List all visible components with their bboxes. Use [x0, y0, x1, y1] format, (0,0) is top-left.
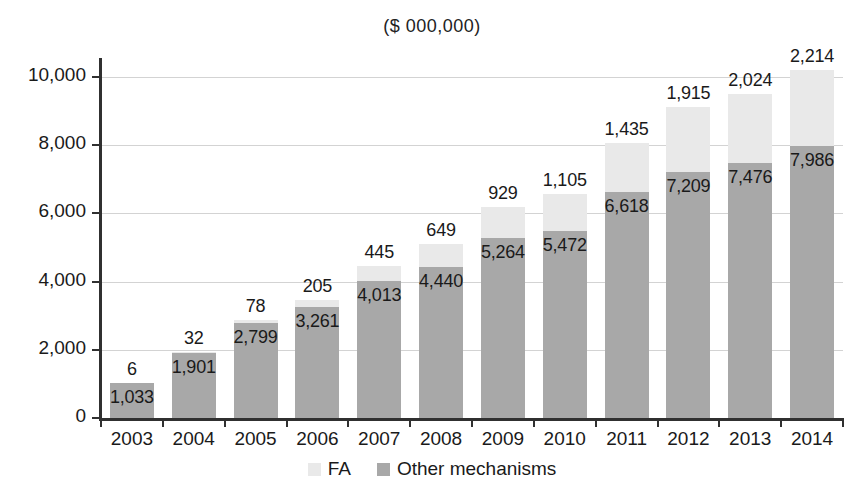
data-label-fa-2008: 649: [401, 220, 481, 241]
data-label-fa-2014: 2,214: [772, 46, 852, 67]
y-axis-tick: [92, 349, 102, 351]
x-axis-tick: [286, 418, 288, 427]
x-axis-tick-label: 2014: [781, 428, 843, 450]
x-axis-tick-label: 2006: [287, 428, 349, 450]
stacked-bar-chart: ($ 000,000) 02,0004,0006,0008,00010,000 …: [0, 0, 864, 497]
bar-2013[interactable]: [728, 94, 772, 418]
bar-segment-other-mechanisms[interactable]: [666, 172, 710, 418]
bar-2014[interactable]: [790, 70, 834, 418]
data-label-fa-2011: 1,435: [587, 119, 667, 140]
bar-segment-other-mechanisms[interactable]: [481, 238, 525, 418]
x-axis-tick: [533, 418, 535, 427]
data-label-fa-2013: 2,024: [710, 70, 790, 91]
bar-segment-fa[interactable]: [357, 266, 401, 281]
x-axis-tick-label: 2008: [410, 428, 472, 450]
x-axis-tick-label: 2009: [472, 428, 534, 450]
bar-segment-other-mechanisms[interactable]: [605, 192, 649, 418]
chart-legend: FA Other mechanisms: [0, 458, 864, 480]
x-axis-tick: [657, 418, 659, 427]
x-axis-tick-label: 2005: [225, 428, 287, 450]
data-label-fa-2007: 445: [339, 242, 419, 263]
x-axis-tick-label: 2007: [348, 428, 410, 450]
bar-segment-fa[interactable]: [666, 107, 710, 172]
data-label-other-2014: 7,986: [772, 150, 852, 171]
bar-segment-other-mechanisms[interactable]: [543, 231, 587, 418]
data-label-fa-2010: 1,105: [525, 170, 605, 191]
x-axis-tick: [718, 418, 720, 427]
bar-segment-fa[interactable]: [481, 207, 525, 239]
bar-2009[interactable]: [481, 207, 525, 418]
bar-2011[interactable]: [605, 143, 649, 418]
y-axis-tick: [92, 144, 102, 146]
chart-title: ($ 000,000): [0, 16, 864, 37]
bar-segment-other-mechanisms[interactable]: [728, 163, 772, 418]
bar-segment-fa[interactable]: [728, 94, 772, 163]
y-axis-tick: [92, 76, 102, 78]
y-axis-tick-label: 4,000: [0, 269, 86, 291]
x-axis-tick-label: 2011: [596, 428, 658, 450]
y-axis-tick-label: 10,000: [0, 64, 86, 86]
x-axis-tick-label: 2004: [163, 428, 225, 450]
data-label-other-2011: 6,618: [587, 196, 667, 217]
x-axis-tick: [100, 418, 102, 427]
x-axis-tick: [224, 418, 226, 427]
y-axis-tick: [92, 281, 102, 283]
x-axis-tick: [162, 418, 164, 427]
bar-segment-fa[interactable]: [790, 70, 834, 145]
bar-2010[interactable]: [543, 194, 587, 418]
x-axis-tick: [347, 418, 349, 427]
x-axis-tick-label: 2010: [534, 428, 596, 450]
x-axis-tick: [471, 418, 473, 427]
y-axis-tick-label: 6,000: [0, 200, 86, 222]
legend-item-other-mechanisms[interactable]: Other mechanisms: [377, 458, 556, 480]
data-label-other-2008: 4,440: [401, 271, 481, 292]
x-axis-tick-label: 2003: [101, 428, 163, 450]
bar-segment-fa[interactable]: [419, 244, 463, 266]
legend-label-fa: FA: [328, 458, 351, 480]
data-label-other-2003: 1,033: [92, 387, 172, 408]
y-axis-tick-label: 0: [0, 405, 86, 427]
bar-segment-fa[interactable]: [605, 143, 649, 192]
data-label-other-2010: 5,472: [525, 235, 605, 256]
legend-item-fa[interactable]: FA: [308, 458, 351, 480]
bar-2012[interactable]: [666, 107, 710, 418]
x-axis-tick-label: 2012: [658, 428, 720, 450]
data-label-other-2006: 3,261: [277, 311, 357, 332]
x-axis-tick: [780, 418, 782, 427]
bar-segment-other-mechanisms[interactable]: [790, 146, 834, 418]
x-axis-tick: [409, 418, 411, 427]
x-axis-tick: [842, 418, 844, 427]
legend-swatch-fa-icon: [308, 463, 321, 476]
bar-segment-fa[interactable]: [543, 194, 587, 232]
y-axis-tick-label: 8,000: [0, 132, 86, 154]
x-axis-tick: [595, 418, 597, 427]
legend-label-other-mechanisms: Other mechanisms: [397, 458, 556, 480]
y-axis-tick: [92, 212, 102, 214]
data-label-other-2004: 1,901: [154, 357, 234, 378]
bar-segment-fa[interactable]: [295, 300, 339, 307]
y-axis-tick-label: 2,000: [0, 337, 86, 359]
x-axis-tick-label: 2013: [719, 428, 781, 450]
legend-swatch-other-icon: [377, 463, 390, 476]
